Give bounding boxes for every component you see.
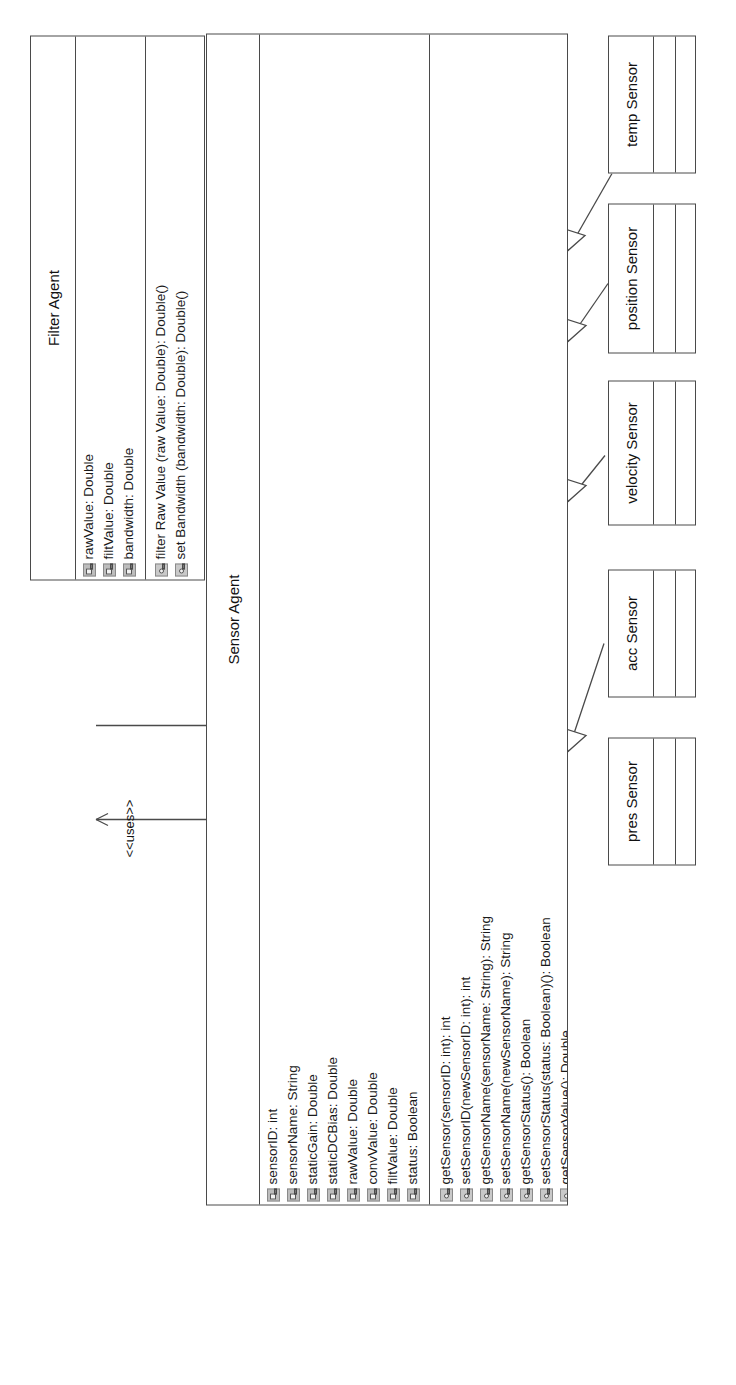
pres-sensor-title: pres Sensor [609,738,653,864]
attribute-row[interactable]: bandwidth: Double [119,36,139,579]
attribute-icon [347,1188,360,1201]
position-sensor-title: position Sensor [609,204,653,352]
inheritance-position-sensor [561,283,608,341]
velocity-sensor-title: velocity Sensor [609,381,653,524]
method-row[interactable]: setSensorName(newSensorName): String [496,34,516,1204]
attribute-label: sensorID: int [263,1108,283,1184]
attribute-icon [407,1188,420,1201]
class-box-position-sensor[interactable]: position Sensor [608,203,696,353]
sensor-agent-method-compartment: getSensor(sensorID: int): int setSensorI… [430,34,567,1204]
method-row[interactable]: setSensorID(newSensorID: int): int [456,34,476,1204]
sensor-agent-title: Sensor Agent [207,34,259,1204]
method-icon [480,1188,493,1201]
method-row[interactable]: getSensor(sensorID: int): int [436,34,456,1204]
attribute-label: sensorName: String [283,1065,303,1184]
attribute-row[interactable]: staticDCBias: Double [323,34,343,1204]
method-label: getSensorStatus(): Boolean [516,1018,536,1184]
attribute-label: staticGain: Double [303,1074,323,1184]
attribute-label: bandwidth: Double [119,447,139,559]
class-box-velocity-sensor[interactable]: velocity Sensor [608,380,696,525]
method-icon [460,1188,473,1201]
method-icon [520,1188,533,1201]
temp-sensor-title: temp Sensor [609,36,653,172]
method-row[interactable]: getSensorValue(): Double [556,34,567,1204]
attribute-icon [83,563,96,576]
attribute-icon [123,563,136,576]
method-row[interactable]: getSensorName(sensorName: String): Strin… [476,34,496,1204]
uml-diagram-canvas: Filter Agent rawValue: Double filtValue:… [0,0,736,1385]
attribute-row[interactable]: filtValue: Double [383,34,403,1204]
acc-sensor-title: acc Sensor [609,570,653,696]
method-row[interactable]: setSensorStatus(status: Boolean)(): Bool… [536,34,556,1204]
attribute-row[interactable]: filtValue: Double [99,36,119,579]
method-icon [540,1188,553,1201]
attribute-label: staticDCBias: Double [323,1056,343,1184]
class-box-acc-sensor[interactable]: acc Sensor [608,569,696,697]
filter-agent-attributes: rawValue: Double filtValue: Double bandw… [79,36,139,579]
attribute-row[interactable]: sensorName: String [283,34,303,1204]
method-label: getSensorName(sensorName: String): Strin… [476,915,496,1184]
method-icon [175,563,188,576]
method-row[interactable]: set Bandwidth (bandwidth: Double): Doubl… [171,36,191,579]
method-label: setSensorName(newSensorName): String [496,932,516,1184]
sensor-agent-attributes: sensorID: int sensorName: String staticG… [263,34,423,1204]
attribute-label: status: Boolean [403,1091,423,1184]
method-icon [155,563,168,576]
attribute-icon [367,1188,380,1201]
attribute-row[interactable]: status: Boolean [403,34,423,1204]
uses-stereotype-label: <<uses>> [122,799,137,857]
method-row[interactable]: filter Raw Value (raw Value: Double): Do… [151,36,171,579]
method-label: setSensorID(newSensorID: int): int [456,976,476,1184]
method-label: filter Raw Value (raw Value: Double): Do… [151,284,171,559]
attribute-icon [287,1188,300,1201]
method-label: setSensorStatus(status: Boolean)(): Bool… [536,917,556,1184]
attribute-icon [327,1188,340,1201]
attribute-row[interactable]: rawValue: Double [79,36,99,579]
attribute-row[interactable]: sensorID: int [263,34,283,1204]
attribute-icon [267,1188,280,1201]
attribute-row[interactable]: staticGain: Double [303,34,323,1204]
attribute-icon [307,1188,320,1201]
attribute-row[interactable]: convValue: Double [363,34,383,1204]
method-icon [440,1188,453,1201]
attribute-label: rawValue: Double [79,453,99,559]
method-icon [560,1188,568,1201]
attribute-icon [103,563,116,576]
attribute-label: rawValue: Double [343,1078,363,1184]
method-label: getSensor(sensorID: int): int [436,1016,456,1184]
method-label: getSensorValue(): Double [556,1030,567,1184]
attribute-label: filtValue: Double [99,462,119,559]
attribute-icon [387,1188,400,1201]
attribute-label: filtValue: Double [383,1087,403,1184]
method-icon [500,1188,513,1201]
attribute-row[interactable]: rawValue: Double [343,34,363,1204]
filter-agent-methods: filter Raw Value (raw Value: Double): Do… [151,36,191,579]
class-box-pres-sensor[interactable]: pres Sensor [608,737,696,865]
method-row[interactable]: getSensorStatus(): Boolean [516,34,536,1204]
method-label: set Bandwidth (bandwidth: Double): Doubl… [171,290,191,559]
class-box-temp-sensor[interactable]: temp Sensor [608,35,696,173]
class-box-filter-agent[interactable]: Filter Agent rawValue: Double filtValue:… [30,35,205,580]
attribute-label: convValue: Double [363,1072,383,1184]
filter-agent-title: Filter Agent [31,36,75,579]
